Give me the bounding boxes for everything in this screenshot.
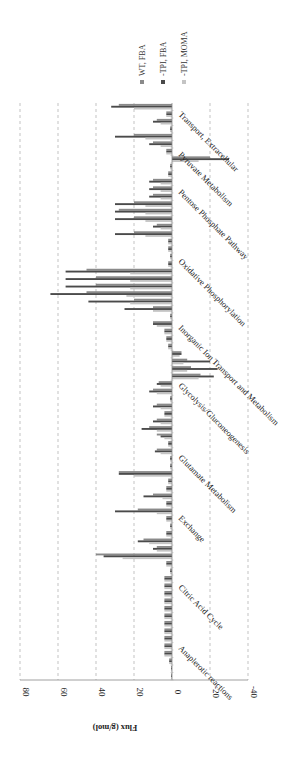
bar — [134, 299, 172, 301]
bar — [153, 141, 172, 143]
bar — [166, 505, 172, 507]
category-label: Glutamate Metabolism — [177, 453, 240, 516]
bar — [166, 149, 172, 151]
bar — [153, 389, 172, 391]
bar — [169, 662, 172, 664]
bar — [119, 209, 172, 211]
bar — [161, 145, 172, 147]
bar — [145, 220, 172, 222]
bar — [153, 310, 172, 312]
bar — [172, 353, 182, 355]
bar — [164, 602, 172, 604]
bar — [153, 323, 172, 325]
bar — [149, 196, 172, 198]
bar — [149, 181, 172, 183]
legend-label: WT, FBA — [138, 44, 147, 76]
bar — [66, 271, 172, 273]
bar — [161, 123, 172, 125]
bar — [138, 540, 172, 542]
bar — [153, 179, 172, 181]
bar — [168, 344, 172, 346]
bar — [164, 638, 172, 640]
bar — [149, 542, 172, 544]
y-tick-label: 0 — [173, 690, 183, 695]
category-label: Citric Acid Cycle — [177, 582, 226, 631]
bar — [149, 391, 172, 393]
bar — [157, 419, 172, 421]
bar — [166, 535, 172, 537]
bar — [168, 346, 172, 348]
bar — [96, 554, 172, 556]
bar — [166, 563, 172, 565]
bar — [161, 183, 172, 185]
bar — [164, 411, 172, 413]
bar — [166, 113, 172, 115]
bar — [145, 213, 172, 215]
bar — [164, 585, 172, 587]
bar — [172, 368, 218, 370]
category-label: Anaplerotic reactions — [177, 643, 236, 702]
category-label: Pentose Phosphate Pathway — [177, 187, 252, 262]
bar — [168, 173, 172, 175]
bar — [161, 452, 172, 454]
bar — [87, 269, 173, 271]
bar — [164, 583, 172, 585]
bar — [166, 153, 172, 155]
bar — [164, 632, 172, 634]
bar — [50, 293, 172, 295]
legend-label: -TPI, FBA — [159, 42, 168, 76]
bar — [164, 593, 172, 595]
bar — [166, 565, 172, 567]
bar — [157, 550, 172, 552]
bar — [153, 406, 172, 408]
bar — [157, 325, 172, 327]
bar — [134, 134, 172, 136]
bar — [161, 422, 172, 424]
bar — [130, 273, 172, 275]
bar — [166, 516, 172, 518]
bar — [164, 621, 172, 623]
bar — [166, 151, 172, 153]
bar — [172, 359, 187, 361]
bar — [134, 475, 172, 477]
bar — [161, 435, 172, 437]
bar — [164, 332, 172, 334]
bar — [164, 647, 172, 649]
bar — [96, 284, 172, 286]
bar — [149, 426, 172, 428]
bar — [168, 263, 172, 265]
legend-swatch — [140, 80, 144, 84]
bar — [144, 539, 173, 541]
bar — [164, 606, 172, 608]
bar — [166, 488, 172, 490]
bar — [164, 630, 172, 632]
y-tick-label: 20 — [135, 688, 145, 698]
bar — [172, 377, 199, 379]
bar — [153, 548, 172, 550]
y-tick-label: 40 — [97, 688, 107, 698]
axis-title: Flux (g/mol) — [93, 723, 138, 733]
bar — [164, 580, 172, 582]
bar — [164, 415, 172, 417]
bar — [157, 224, 172, 226]
bar — [153, 226, 172, 228]
bar — [164, 591, 172, 593]
y-tick-label: -40 — [249, 686, 259, 698]
bar — [164, 623, 172, 625]
bar — [164, 617, 172, 619]
bar — [153, 186, 172, 188]
bar — [153, 194, 172, 196]
bar — [166, 486, 172, 488]
bar — [164, 600, 172, 602]
bar — [161, 190, 172, 192]
bar — [164, 598, 172, 600]
bar — [168, 445, 172, 447]
bar — [157, 434, 172, 436]
bar — [157, 392, 172, 394]
bar — [157, 119, 172, 121]
bar — [168, 443, 172, 445]
y-tick-label: 80 — [21, 688, 31, 698]
bar — [164, 625, 172, 627]
bar — [96, 276, 172, 278]
bar — [164, 437, 172, 439]
